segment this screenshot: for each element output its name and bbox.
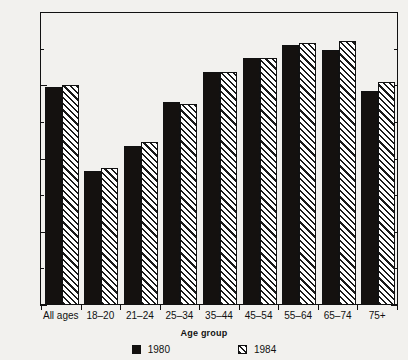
solid-black-square-icon (132, 345, 141, 354)
legend-item-1980: 1980 (132, 344, 170, 355)
bar-1984 (260, 58, 277, 305)
bar-series-container (41, 13, 397, 305)
bar-1980 (322, 50, 339, 305)
bar-1980 (45, 87, 62, 305)
bar-group (163, 13, 197, 305)
bar-1980 (282, 45, 299, 305)
bar-group (124, 13, 158, 305)
bar-1984 (101, 168, 118, 305)
hatched-square-icon (238, 345, 247, 354)
legend-item-1984: 1984 (238, 344, 276, 355)
bar-1980 (163, 102, 180, 305)
bar-1980 (203, 72, 220, 305)
x-tick (397, 305, 398, 310)
x-tick-label: 75+ (342, 310, 408, 321)
bar-1984 (339, 41, 356, 305)
legend-label: 1984 (254, 344, 276, 355)
bar-group (282, 13, 316, 305)
bar-1984 (62, 85, 79, 305)
bar-1984 (180, 104, 197, 305)
bar-group (243, 13, 277, 305)
bar-1984 (378, 82, 395, 305)
bar-group (203, 13, 237, 305)
bar-1980 (361, 91, 378, 305)
bar-1984 (141, 142, 158, 305)
bar-group (361, 13, 395, 305)
bar-group (322, 13, 356, 305)
bar-1980 (243, 58, 260, 305)
bar-1984 (220, 72, 237, 305)
bar-1980 (124, 146, 141, 305)
bar-chart: Percentage 020406080 All ages18–2021–242… (0, 0, 408, 360)
bar-1980 (84, 171, 101, 305)
x-axis-label: Age group (0, 328, 408, 338)
chart-legend: 1980 1984 (0, 344, 408, 355)
bar-group (84, 13, 118, 305)
bar-1984 (299, 43, 316, 305)
bar-group (45, 13, 79, 305)
legend-label: 1980 (148, 344, 170, 355)
